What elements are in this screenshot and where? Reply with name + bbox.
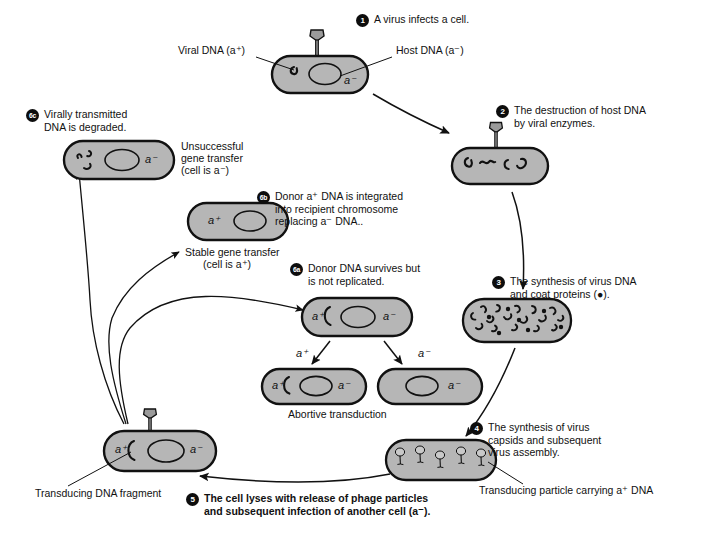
step-badge-1: 1 — [356, 14, 369, 27]
outcome-unsuccessful-line3: (cell is a⁻) — [181, 164, 229, 177]
step-text-4-line2: capsids and subsequent — [488, 434, 601, 447]
step-4: 4 The synthesis of virus capsids and sub… — [470, 421, 601, 459]
step-text-1: A virus infects a cell. — [374, 13, 469, 26]
step-text-4-line3: virus assembly. — [488, 446, 601, 459]
cell-degraded-host — [452, 123, 548, 185]
arrow-fate-6a-abortive — [119, 296, 303, 424]
genotype-marker-stable: a⁺ — [208, 214, 220, 227]
genotype-marker-step1: a⁻ — [344, 74, 356, 87]
step-badge-6b: 6b — [257, 191, 270, 204]
callout-transducing-particle: Transducing particle carrying a⁺ DNA — [479, 484, 653, 497]
branch-label-right: a⁻ — [418, 347, 430, 360]
step-text-5-line1: The cell lyses with release of phage par… — [204, 492, 431, 505]
outcome-unsuccessful-line1: Unsuccessful — [181, 140, 243, 153]
outcome-stable-line2: (cell is a⁺) — [203, 258, 251, 271]
step-text-6a-line2: is not replicated. — [308, 275, 420, 288]
genotype-marker-abortive-parent-aminus: a⁻ — [383, 310, 395, 323]
genotype-marker-daughter-left-aminus: a⁻ — [338, 379, 350, 392]
step-text-6b-line2: into recipient chromosome — [275, 203, 403, 216]
step-text-4-line1: The synthesis of virus — [488, 421, 601, 434]
step-text-2-line2: by viral enzymes. — [514, 117, 646, 130]
step-badge-3: 3 — [492, 276, 505, 289]
genotype-marker-recipient-aminus: a⁻ — [190, 443, 202, 456]
step-badge-5: 5 — [186, 493, 199, 506]
step-text-6b-line1: Donor a⁺ DNA is integrated — [275, 190, 403, 203]
cell-degraded-dna — [64, 141, 174, 179]
step-badge-6c: 6c — [26, 109, 39, 122]
leader-transducing-particle — [488, 462, 523, 484]
cell-virus-dna-synthesis — [463, 299, 571, 342]
genotype-marker-daughter-left-aplus: a⁺ — [272, 379, 284, 392]
genotype-marker-abortive-parent-aplus: a⁺ — [312, 310, 324, 323]
arrow-fate-6b-stable — [109, 252, 179, 424]
step-text-3-line2: and coat proteins (●). — [510, 288, 637, 301]
step-text-6c-line1: Virally transmitted — [44, 108, 127, 121]
step-badge-2: 2 — [496, 105, 509, 118]
outcome-unsuccessful-line2: gene transfer — [181, 152, 243, 165]
arrow-step5-to-recipient — [200, 474, 390, 482]
step-text-6c-line2: DNA is degraded. — [44, 121, 127, 134]
callout-transducing-fragment: Transducing DNA fragment — [35, 487, 161, 500]
branch-label-left: a⁺ — [296, 347, 308, 360]
phage-icon-step5 — [144, 409, 157, 433]
genotype-marker-daughter-right-aminus: a⁻ — [448, 379, 460, 392]
step-text-2-line1: The destruction of host DNA — [514, 104, 646, 117]
step-6b: 6b Donor a⁺ DNA is integrated into recip… — [257, 190, 403, 228]
callout-viral-dna: Viral DNA (a⁺) — [178, 44, 245, 57]
arrow-division-right — [384, 341, 402, 364]
transduction-diagram: 1 A virus infects a cell. Viral DNA (a⁺)… — [0, 0, 704, 553]
genotype-marker-degraded: a⁻ — [145, 153, 157, 166]
step-3: 3 The synthesis of virus DNA and coat pr… — [492, 275, 637, 300]
arrow-fate-6c-degraded — [79, 172, 124, 424]
phage-icon-step1 — [310, 30, 324, 58]
step-2: 2 The destruction of host DNA by viral e… — [496, 104, 646, 129]
callout-host-dna: Host DNA (a⁻) — [396, 44, 464, 57]
step-text-5-line2: and subsequent infection of another cell… — [204, 505, 431, 518]
outcome-stable-line1: Stable gene transfer — [185, 246, 280, 259]
cell-abortive-daughter-right — [378, 369, 482, 404]
step-6a: 6a Donor DNA survives but is not replica… — [290, 262, 420, 287]
outcome-abortive: Abortive transduction — [288, 408, 387, 421]
genotype-marker-recipient-aplus: a⁺ — [115, 443, 127, 456]
step-text-3-line1: The synthesis of virus DNA — [510, 275, 637, 288]
arrow-step1-to-step2 — [373, 94, 449, 133]
step-5: 5 The cell lyses with release of phage p… — [186, 492, 431, 517]
step-text-6a-line1: Donor DNA survives but — [308, 262, 420, 275]
step-1: 1 A virus infects a cell. — [356, 13, 469, 27]
step-6c: 6c Virally transmitted DNA is degraded. — [26, 108, 127, 133]
step-text-6b-line3: replacing a⁻ DNA.. — [275, 215, 403, 228]
arrow-division-left — [312, 341, 330, 364]
step-badge-6a: 6a — [290, 263, 303, 276]
step-badge-4: 4 — [470, 422, 483, 435]
